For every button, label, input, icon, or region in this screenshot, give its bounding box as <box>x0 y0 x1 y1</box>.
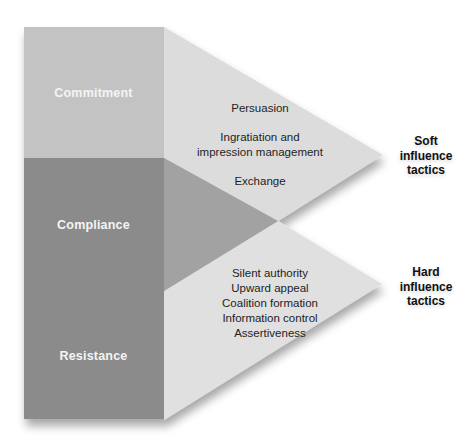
compliance-resistance-block <box>24 158 164 419</box>
outcome-compliance: Compliance <box>24 218 163 232</box>
soft-tactic-persuasion: Persuasion <box>170 101 350 116</box>
soft-influence-tactics-label: Soft influence tactics <box>390 134 462 178</box>
soft-tactic-ingratiation: Ingratiation and impression management <box>170 130 350 160</box>
hard-tactic-upward-appeal: Upward appeal <box>200 281 340 296</box>
hard-influence-tactics-label: Hard influence tactics <box>390 265 462 309</box>
outcome-resistance: Resistance <box>24 349 163 363</box>
hard-tactic-assertiveness: Assertiveness <box>200 326 340 341</box>
outcome-commitment: Commitment <box>24 86 163 100</box>
hard-tactic-silent-authority: Silent authority <box>200 266 340 281</box>
soft-tactic-exchange: Exchange <box>170 174 350 189</box>
hard-tactics-list: Silent authority Upward appeal Coalition… <box>200 266 340 341</box>
hard-tactic-information-control: Information control <box>200 311 340 326</box>
hard-tactic-coalition-formation: Coalition formation <box>200 296 340 311</box>
influence-tactics-diagram: Commitment Compliance Resistance Persuas… <box>0 0 470 443</box>
